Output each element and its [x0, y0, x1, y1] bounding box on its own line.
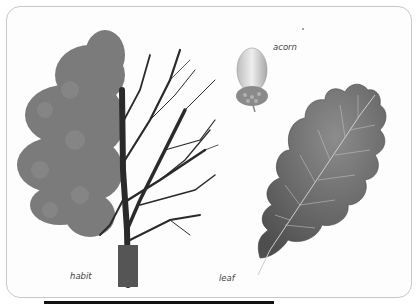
label-acorn: acorn: [273, 42, 297, 52]
oak-illustration: [0, 0, 419, 304]
acorn-drawing: [236, 48, 268, 112]
oak-leaf-drawing: [258, 84, 386, 275]
tree-trunk: [118, 245, 138, 287]
label-habit: habit: [70, 271, 92, 281]
label-leaf: leaf: [219, 273, 235, 283]
